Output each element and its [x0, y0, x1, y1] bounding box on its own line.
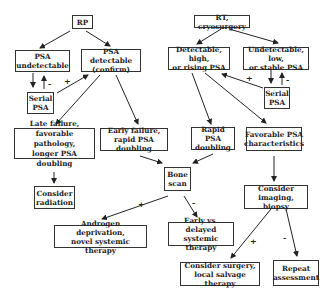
node-serial-psa-right: Serial PSA	[264, 87, 290, 109]
edge-label-plus-bone: +	[138, 199, 145, 209]
node-repeat-assessment: Repeat assessment	[273, 260, 319, 286]
node-favorable-psa: Favorable PSA characteristics	[246, 127, 302, 151]
edge-label-plus-left: +	[64, 76, 71, 86]
node-early-vs-delayed: Early vs. delayed systemic therapy	[168, 222, 234, 246]
node-detectable-high: Detectable, high, or rising PSA	[168, 47, 230, 70]
node-rp: RP	[72, 15, 93, 29]
node-early-failure: Early failure, rapid PSA doubling	[100, 128, 168, 151]
node-undetectable-low: Undetectable, low, or stable PSA	[243, 47, 309, 70]
edge-label-minus-imaging: -	[283, 233, 286, 243]
edge-label-minus-left: -	[48, 79, 51, 89]
node-androgen: Androgen deprivation, novel systemic the…	[54, 225, 147, 248]
node-bone-scan: Bone scan	[164, 167, 191, 191]
edge-label-minus-bone: -	[192, 198, 195, 208]
node-rapid-psa: Rapid PSA doubling	[191, 127, 235, 150]
node-consider-radiation: Consider radiation	[34, 186, 75, 209]
node-psa-detectable: PSA detectable (confirm)	[81, 49, 141, 72]
edge-label-minus-right: -	[286, 75, 289, 85]
edge-label-plus-imaging: +	[250, 236, 257, 246]
node-consider-surgery: Consider surgery, local salvage therapy	[180, 262, 260, 286]
node-serial-psa-left: Serial PSA	[27, 92, 54, 114]
edge-label-plus-right: +	[246, 73, 253, 83]
node-late-failure: Late failure, favorable pathology, longe…	[14, 128, 95, 159]
node-rt-cryosurgery: RT, cryosurgery	[194, 15, 250, 28]
node-consider-imaging: Consider imaging, biopsy	[244, 185, 308, 209]
node-psa-undetectable: PSA undetectable	[15, 50, 70, 72]
